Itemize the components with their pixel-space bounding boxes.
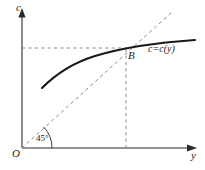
economics-consumption-function-diagram: c y O B c=c(y) 45° — [0, 0, 205, 170]
horizontal-axis-label: y — [191, 150, 196, 161]
point-b-label: B — [128, 50, 135, 61]
origin-label: O — [12, 148, 20, 159]
diagram-canvas — [0, 0, 205, 170]
curve-equation-label: c=c(y) — [148, 44, 175, 54]
vertical-axis-label: c — [16, 2, 21, 13]
angle-label: 45° — [36, 134, 49, 143]
